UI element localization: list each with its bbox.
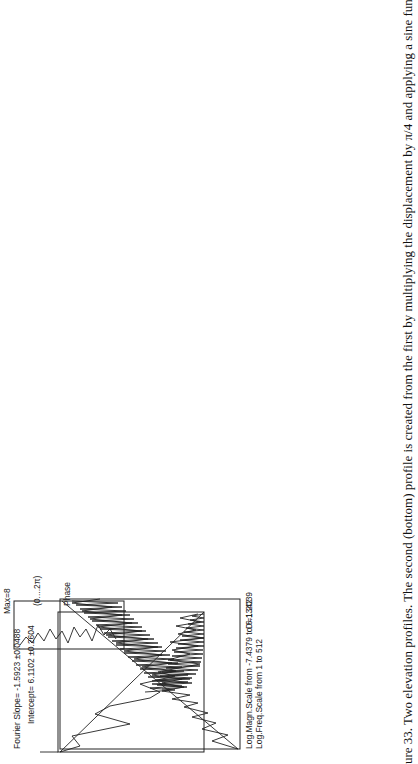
figure-caption: ure 33. Two elevation profiles. The seco… (400, 0, 416, 764)
figure-page: Fourier Slope= -1.5923 ±0.0488 Intercept… (0, 0, 418, 764)
elevation-profiles (0, 0, 418, 764)
